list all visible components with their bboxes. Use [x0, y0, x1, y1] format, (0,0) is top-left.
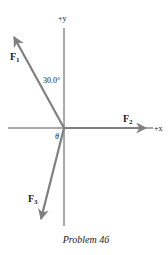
vector-f3 [41, 128, 64, 219]
angle-30-label: 30.0° [43, 76, 60, 85]
theta-label: θ [55, 132, 59, 141]
f3-label: F3 [28, 193, 38, 206]
caption: Problem 46 [62, 234, 110, 245]
f2-label: F2 [123, 113, 133, 126]
force-diagram: +y +x F1 30.0° F2 θ F3 Problem 46 [0, 0, 168, 255]
y-axis-label: +y [58, 14, 67, 23]
f1-label: F1 [10, 51, 20, 64]
x-axis-label: +x [154, 124, 163, 133]
